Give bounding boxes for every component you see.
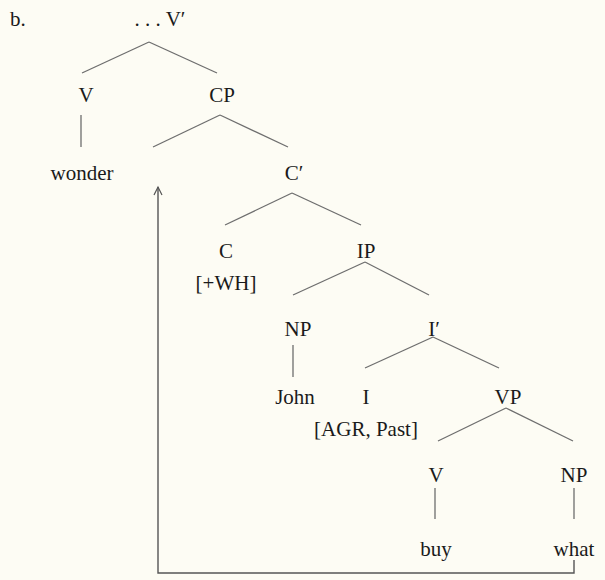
tree-branch xyxy=(82,42,149,73)
tree-node-buy: buy xyxy=(420,538,452,560)
tree-branch xyxy=(292,193,361,225)
tree-branch xyxy=(433,337,499,368)
tree-node-vbar: . . . V′ xyxy=(135,8,186,30)
tree-branch xyxy=(153,115,220,147)
tree-branch xyxy=(365,262,429,295)
tree-branch xyxy=(438,408,506,441)
tree-node-cp: CP xyxy=(209,84,235,106)
tree-node-john: John xyxy=(275,386,315,408)
tree-node-cbar: C′ xyxy=(285,162,304,184)
tree-node-v: V xyxy=(78,84,93,106)
tree-node-c: C xyxy=(219,240,233,262)
tree-node-v2: V xyxy=(428,464,443,486)
tree-branch xyxy=(365,337,433,368)
tree-node-ibar: I′ xyxy=(428,318,440,340)
tree-branch xyxy=(149,42,217,73)
tree-node-ip: IP xyxy=(357,240,376,262)
tree-node-np2: NP xyxy=(561,464,588,486)
tree-node-i: I xyxy=(363,386,370,408)
example-label: b. xyxy=(10,8,26,30)
tree-node-wonder: wonder xyxy=(51,162,114,184)
tree-branch xyxy=(293,262,365,295)
tree-node-np1: NP xyxy=(285,318,312,340)
tree-branch xyxy=(506,408,573,441)
tree-node-what: what xyxy=(554,538,595,560)
tree-branch xyxy=(225,193,292,225)
tree-branch xyxy=(220,115,288,147)
tree-node-wh: [+WH] xyxy=(196,272,257,294)
tree-node-vp: VP xyxy=(495,386,522,408)
tree-node-agr: [AGR, Past] xyxy=(314,418,418,440)
